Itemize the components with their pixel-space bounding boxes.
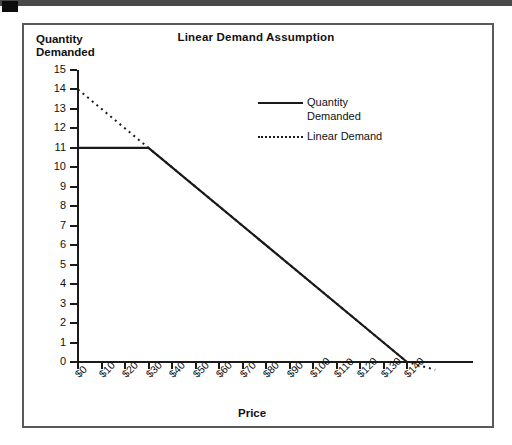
legend-item[interactable]: Linear Demand [258,130,388,164]
solid-line-icon [258,102,303,104]
plot-area: 0123456789101112131415 $0$10$20$30$40$50… [0,0,512,445]
series-line-quantity-demanded [78,148,407,362]
legend-item-label: Linear Demand [307,130,387,144]
series-layer [0,0,512,445]
legend-item-label: Quantity Demanded [307,96,387,123]
dotted-line-icon [258,136,303,138]
legend-item[interactable]: Quantity Demanded [258,96,388,130]
chart-legend: Quantity DemandedLinear Demand [258,96,388,164]
